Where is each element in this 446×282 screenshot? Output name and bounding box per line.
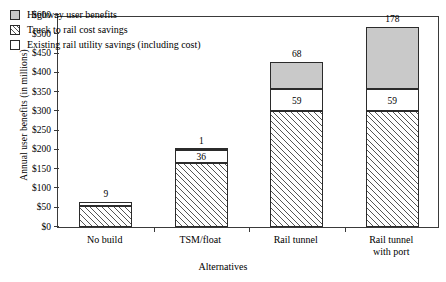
x-category-label-line: Rail tunnel — [248, 234, 344, 246]
bar-segment[interactable] — [270, 62, 323, 88]
bar-segment[interactable] — [79, 206, 132, 227]
x-category-label-line: Rail tunnel — [344, 234, 440, 246]
y-tick-mark — [54, 207, 59, 208]
bar-total-label: 178 — [366, 14, 419, 24]
legend-swatch-hatch — [10, 25, 20, 35]
y-tick-mark — [54, 226, 59, 227]
legend-label: Truck to rail cost savings — [27, 24, 128, 35]
y-tick-label: $350 — [5, 85, 51, 99]
chart-legend: Highway user benefitsTruck to rail cost … — [10, 7, 201, 52]
x-axis-title: Alternatives — [0, 261, 446, 272]
y-tick-label: $400 — [5, 65, 51, 79]
bar-segment-label: 59 — [367, 96, 418, 106]
y-tick-mark — [54, 149, 59, 150]
y-tick-mark — [54, 91, 59, 92]
legend-item[interactable]: Existing rail utility savings (including… — [10, 37, 201, 52]
bar-segment[interactable]: 59 — [270, 89, 323, 112]
x-category-label: Rail tunnel — [248, 234, 344, 246]
bar-segment[interactable]: 36 — [175, 150, 228, 164]
bar-segment[interactable] — [366, 27, 419, 88]
legend-label: Highway user benefits — [27, 9, 117, 20]
y-tick-label: $300 — [5, 104, 51, 118]
legend-item[interactable]: Highway user benefits — [10, 7, 201, 22]
bar-segment[interactable] — [175, 148, 228, 150]
legend-item[interactable]: Truck to rail cost savings — [10, 22, 201, 37]
bar-segment[interactable] — [79, 202, 132, 205]
x-axis-tick — [249, 227, 250, 232]
legend-label: Existing rail utility savings (including… — [27, 39, 201, 50]
x-category-label: TSM/float — [153, 234, 249, 246]
y-tick-label: $0 — [5, 220, 51, 234]
x-category-label: No build — [57, 234, 153, 246]
stacked-bar-chart: Annual user benefits (in millions) $0$50… — [0, 0, 446, 282]
y-tick-label: $100 — [5, 181, 51, 195]
legend-swatch-white — [10, 40, 20, 50]
y-tick-mark — [54, 130, 59, 131]
x-category-label-line: with port — [344, 246, 440, 258]
x-category-label: Rail tunnelwith port — [344, 234, 440, 258]
bar-segment[interactable]: 59 — [366, 89, 419, 112]
bar-segment[interactable] — [270, 111, 323, 227]
x-axis-tick — [154, 227, 155, 232]
bar-total-label: 1 — [175, 136, 228, 146]
y-tick-mark — [54, 168, 59, 169]
x-category-label-line: TSM/float — [153, 234, 249, 246]
bar-segment-label: 36 — [176, 152, 227, 162]
bar-total-label: 68 — [270, 49, 323, 59]
y-tick-mark — [54, 187, 59, 188]
y-tick-mark — [54, 72, 59, 73]
legend-swatch-gray — [10, 10, 20, 20]
bar-total-label: 9 — [79, 189, 132, 199]
y-tick-label: $200 — [5, 142, 51, 156]
bar-segment-label: 59 — [271, 96, 322, 106]
x-axis-tick — [345, 227, 346, 232]
y-tick-label: $250 — [5, 123, 51, 137]
y-tick-mark — [54, 110, 59, 111]
bar-segment[interactable] — [366, 111, 419, 227]
bar-stack[interactable]: 59178 — [366, 15, 419, 227]
bar-segment[interactable] — [175, 163, 228, 227]
x-category-label-line: No build — [57, 234, 153, 246]
y-tick-label: $50 — [5, 200, 51, 214]
y-tick-mark — [54, 53, 59, 54]
bar-stack[interactable]: 5968 — [270, 15, 323, 227]
y-tick-label: $150 — [5, 162, 51, 176]
